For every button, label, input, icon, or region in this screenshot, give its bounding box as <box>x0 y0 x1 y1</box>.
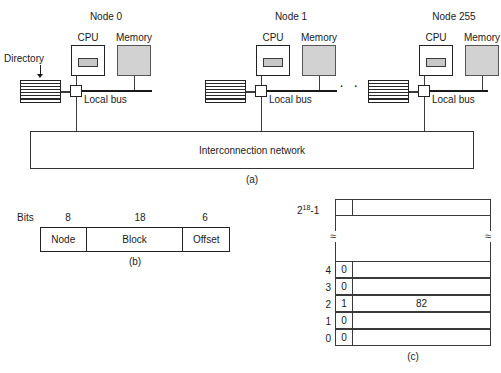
directory-row-4: 0 <box>335 261 491 278</box>
bits-label: Bits <box>17 212 34 223</box>
field-0-bitwidth: 8 <box>65 212 71 223</box>
address-bitfield: Node Block Offset <box>40 227 230 252</box>
directory-row-top <box>335 199 491 216</box>
directory-row-0-index: 0 <box>305 333 331 344</box>
directory-row-0: 0 <box>335 329 491 346</box>
directory-row-3: 0 <box>335 278 491 295</box>
node-1-group: Node 1 CPU Memory Local bus <box>205 8 365 118</box>
directory-row-4-bit: 0 <box>336 262 353 277</box>
directory-row-2-value: 82 <box>353 296 490 311</box>
panel-b: Bits 8 18 6 Node Block Offset (b) <box>0 195 265 270</box>
field-node: Node <box>41 228 87 251</box>
panel-a: Node 0 CPU Memory Directory Local bus <box>0 0 501 190</box>
node-1-directory-box <box>205 80 246 103</box>
interconnection-network-box: Interconnection network <box>30 131 474 169</box>
break-mark-left-icon: ≈ <box>330 231 336 242</box>
node-1-local-bus-label: Local bus <box>269 94 312 105</box>
node-255-cpu-bus-wire <box>424 76 425 85</box>
node-1-memory-bus-wire <box>319 76 320 90</box>
directory-row-top-value <box>353 200 490 215</box>
node-1-hub <box>255 85 267 97</box>
panel-a-caption: (a) <box>246 174 258 185</box>
node-255-memory-box <box>465 45 499 76</box>
field-2-bitwidth: 6 <box>202 212 208 223</box>
directory-row-1-bit: 0 <box>336 313 353 328</box>
node-0-group: Node 0 CPU Memory Directory Local bus <box>20 8 180 118</box>
directory-row-4-index: 4 <box>305 265 331 276</box>
node-255-group: Node 255 CPU Memory Local bus <box>368 8 501 118</box>
directory-row-1-value <box>353 313 490 328</box>
node-0-title: Node 0 <box>90 11 122 22</box>
directory-row-0-bit: 0 <box>336 330 353 345</box>
panel-c-caption: (c) <box>407 351 419 362</box>
directory-row-top-bit <box>336 200 353 215</box>
directory-row-2-bit: 1 <box>336 296 353 311</box>
node-1-cpu-cache <box>263 58 283 67</box>
node-0-directory-box <box>20 80 61 103</box>
node-255-local-bus-label: Local bus <box>432 94 475 105</box>
directory-row-2: 1 82 <box>335 295 491 312</box>
node-1-local-bus <box>267 90 337 93</box>
field-block: Block <box>87 228 184 251</box>
directory-row-0-value <box>353 330 490 345</box>
node-1-memory-box <box>302 45 336 76</box>
node-0-memory-label: Memory <box>116 32 152 43</box>
directory-row-4-value <box>353 262 490 277</box>
node-1-title: Node 1 <box>275 11 307 22</box>
node-1-cpu-bus-wire <box>261 76 262 85</box>
node-0-memory-bus-wire <box>134 76 135 90</box>
node-0-hub <box>70 85 82 97</box>
directory-row-2-index: 2 <box>305 299 331 310</box>
node-0-cpu-label: CPU <box>77 32 98 43</box>
node-255-cpu-cache <box>426 58 446 67</box>
panel-c: 218-1 ≈ ≈ 4 0 3 0 2 1 82 1 0 <box>280 195 501 373</box>
node-0-cpu-bus-wire <box>76 76 77 85</box>
field-offset: Offset <box>183 228 229 251</box>
directory-label: Directory <box>4 53 44 64</box>
panel-c-top-index-label: 218-1 <box>297 202 319 216</box>
directory-row-3-index: 3 <box>305 282 331 293</box>
top-index-suffix: -1 <box>310 205 319 216</box>
node-1-memory-label: Memory <box>301 32 337 43</box>
directory-row-3-bit: 0 <box>336 279 353 294</box>
panel-b-caption: (b) <box>129 256 141 267</box>
node-0-local-bus-label: Local bus <box>84 94 127 105</box>
field-1-bitwidth: 18 <box>134 212 145 223</box>
node-255-directory-box <box>368 80 409 103</box>
directory-row-1: 0 <box>335 312 491 329</box>
break-mark-right-icon: ≈ <box>485 231 491 242</box>
directory-row-1-index: 1 <box>305 316 331 327</box>
directory-arrow-head <box>37 74 43 78</box>
node-255-title: Node 255 <box>432 11 475 22</box>
node-255-local-bus <box>430 90 488 93</box>
node-255-memory-bus-wire <box>482 76 483 90</box>
interconnection-network-label: Interconnection network <box>31 145 473 156</box>
node-255-hub <box>418 85 430 97</box>
node-255-memory-label: Memory <box>464 32 500 43</box>
node-0-memory-box <box>117 45 151 76</box>
directory-row-3-value <box>353 279 490 294</box>
node-0-local-bus <box>82 90 152 93</box>
node-255-cpu-label: CPU <box>425 32 446 43</box>
node-1-cpu-label: CPU <box>262 32 283 43</box>
figure-canvas: Node 0 CPU Memory Directory Local bus <box>0 0 501 373</box>
node-0-cpu-cache <box>78 58 98 67</box>
